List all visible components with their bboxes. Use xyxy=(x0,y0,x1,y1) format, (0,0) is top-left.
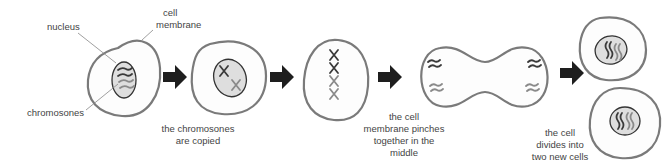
chromosomes-label: chromosones xyxy=(27,107,84,118)
caption-line: are copied xyxy=(176,135,220,146)
mitosis-diagram: nucleus cell membrane chromosones the ch… xyxy=(0,0,665,168)
stage-1-cell: nucleus cell membrane chromosones xyxy=(27,7,201,118)
arrow-right-icon xyxy=(378,65,402,89)
caption-line: the chromosones xyxy=(162,123,235,134)
stage-2-cell: the chromosones are copied xyxy=(162,42,266,146)
cell-membrane-label-line2: membrane xyxy=(156,19,201,30)
stage-4-cell: the cell membrane pinches together in th… xyxy=(364,47,548,158)
stage-5-cells: the cell divides into two new cells xyxy=(532,17,660,162)
cell-membrane-pinching xyxy=(421,47,547,106)
cell-membrane-label-line1: cell xyxy=(163,7,177,18)
caption-line: the cell xyxy=(389,111,419,122)
caption-line: divides into xyxy=(536,139,584,150)
caption-line: two new cells xyxy=(532,151,589,162)
membrane-leader-line xyxy=(142,30,153,40)
caption-line: the cell xyxy=(545,127,575,138)
caption-line: together in the xyxy=(374,135,435,146)
arrow-right-icon xyxy=(270,65,294,89)
nucleus-label: nucleus xyxy=(47,21,80,32)
nucleus xyxy=(610,107,640,135)
stage-3-cell xyxy=(304,40,368,120)
caption-line: membrane pinches xyxy=(364,123,445,134)
caption-line: middle xyxy=(390,147,418,158)
arrow-right-icon xyxy=(560,61,584,85)
arrow-right-icon xyxy=(163,65,187,89)
